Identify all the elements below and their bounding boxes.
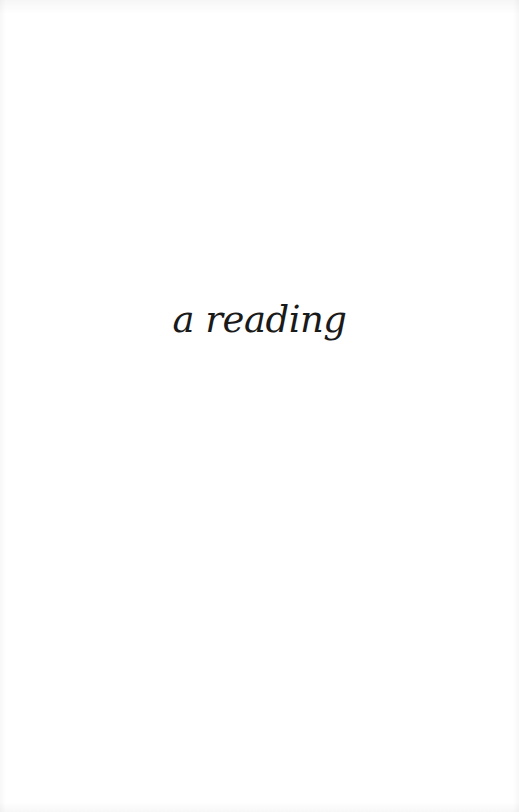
scan-show-through-top: [0, 0, 519, 14]
scan-show-through-bottom: [0, 802, 519, 812]
half-title: a reading: [0, 296, 519, 344]
scan-edge-right: [513, 0, 519, 812]
book-page: a reading: [0, 0, 519, 812]
scan-edge-left: [0, 0, 6, 812]
